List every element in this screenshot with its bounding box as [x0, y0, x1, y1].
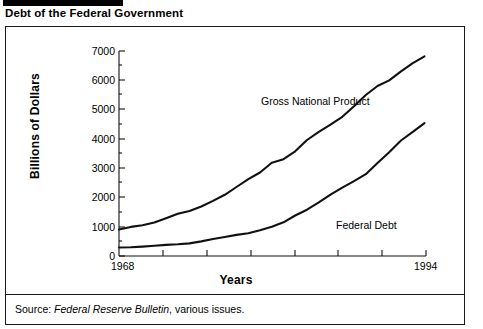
series-annotation-gnp: Gross National Product [261, 95, 370, 107]
page-title: Debt of the Federal Government [5, 7, 183, 19]
series-line-gross-national-product [119, 56, 425, 229]
series-annotation-federal-debt: Federal Debt [336, 219, 397, 231]
chart-svg [6, 27, 466, 296]
chart-plot-area: Billions of Dollars 7000 6000 5000 4000 … [6, 27, 466, 296]
figure-container: Billions of Dollars 7000 6000 5000 4000 … [5, 26, 465, 295]
source-container: Source: Federal Reserve Bulletin, variou… [5, 295, 465, 325]
x-axis-ticks [163, 250, 426, 256]
source-prefix: Source: [15, 303, 51, 315]
y-axis-ticks [119, 51, 125, 256]
x-tick-label-start: 1968 [111, 260, 134, 272]
source-publication: Federal Reserve Bulletin [54, 303, 169, 315]
x-axis-title: Years [6, 273, 466, 287]
x-tick-label-end: 1994 [414, 260, 437, 272]
title-accent-bar [3, 0, 123, 6]
source-note: Source: Federal Reserve Bulletin, variou… [15, 303, 244, 315]
source-suffix: , various issues. [169, 303, 244, 315]
